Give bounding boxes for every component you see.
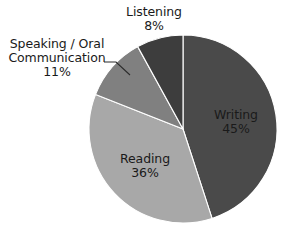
slice-label-speaking-line1: Speaking / Oral <box>10 36 105 51</box>
slice-label-writing-value: 45% <box>205 122 267 136</box>
slice-label-speaking-value: 11% <box>2 65 112 79</box>
slice-label-reading: Reading 36% <box>112 152 178 180</box>
slice-label-writing: Writing 45% <box>205 108 267 136</box>
slice-label-speaking-line2: Communication <box>2 51 112 65</box>
slice-label-listening-value: 8% <box>112 19 196 33</box>
slice-label-listening: Listening 8% <box>112 5 196 33</box>
slice-label-writing-name: Writing <box>214 107 258 122</box>
pie-chart-figure: Listening 8% Speaking / Oral Communicati… <box>0 0 292 238</box>
slice-label-reading-name: Reading <box>120 151 170 166</box>
slice-label-listening-name: Listening <box>126 4 182 19</box>
slice-label-speaking-oral-communication: Speaking / Oral Communication 11% <box>2 37 112 79</box>
slice-label-reading-value: 36% <box>112 166 178 180</box>
